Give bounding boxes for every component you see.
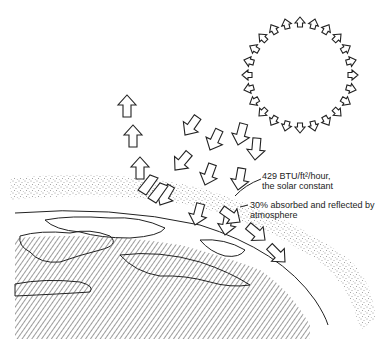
solar-radiation-diagram — [0, 0, 375, 339]
land-mass — [45, 217, 165, 238]
absorbed-label: 30% absorbed and reflected by atmosphere — [250, 200, 375, 220]
absorbed-line2: atmosphere — [250, 210, 375, 220]
solar-constant-label: 429 BTU/ft²/hour, the solar constant — [262, 171, 333, 191]
solar-constant-line2: the solar constant — [262, 181, 333, 191]
earth-ocean — [15, 236, 310, 339]
absorbed-line1: 30% absorbed and reflected by — [250, 200, 375, 210]
solar-constant-line1: 429 BTU/ft²/hour, — [262, 171, 333, 181]
sun-icon — [242, 17, 358, 133]
